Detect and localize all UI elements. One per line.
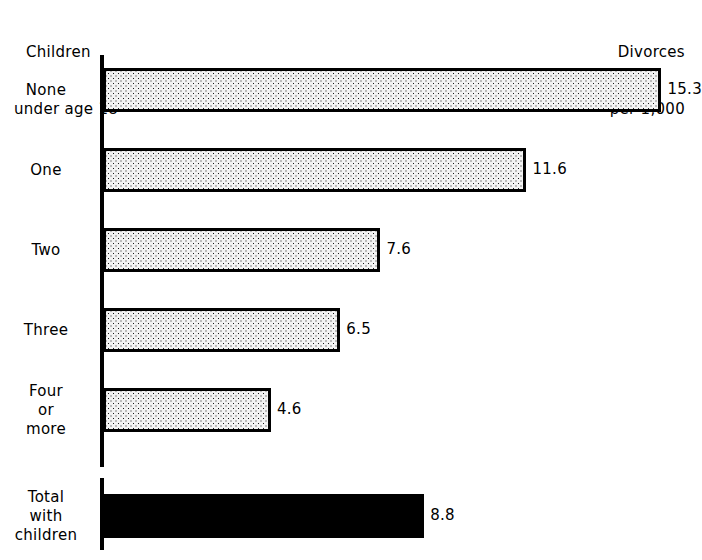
- category-label-line: Total: [0, 488, 92, 507]
- value-label-three: 6.5: [346, 320, 371, 339]
- category-label-none: None: [0, 81, 92, 100]
- category-label-line: or: [0, 401, 92, 420]
- bar-none: [103, 68, 661, 112]
- category-label-line: children: [0, 526, 92, 545]
- category-label-line: more: [0, 420, 92, 439]
- bar-total-with-children: [103, 494, 424, 538]
- category-label-line: Two: [0, 241, 92, 260]
- category-label-three: Three: [0, 321, 92, 340]
- category-label-line: with: [0, 507, 92, 526]
- category-label-line: Three: [0, 321, 92, 340]
- value-label-four-or-more: 4.6: [277, 400, 302, 419]
- x-axis-title-line1: Divorces: [610, 43, 685, 62]
- category-label-total-with-children: Totalwithchildren: [0, 488, 92, 545]
- bar-one: [103, 148, 526, 192]
- category-label-one: One: [0, 161, 92, 180]
- bar-three: [103, 308, 340, 352]
- category-label-two: Two: [0, 241, 92, 260]
- bar-four-or-more: [103, 388, 271, 432]
- category-label-line: One: [0, 161, 92, 180]
- bar-two: [103, 228, 380, 272]
- category-label-line: Four: [0, 382, 92, 401]
- category-label-line: None: [0, 81, 92, 100]
- value-label-none: 15.3: [667, 80, 702, 99]
- value-label-total-with-children: 8.8: [430, 506, 455, 525]
- value-label-one: 11.6: [532, 160, 567, 179]
- value-label-two: 7.6: [386, 240, 411, 259]
- category-label-four-or-more: Fourormore: [0, 382, 92, 439]
